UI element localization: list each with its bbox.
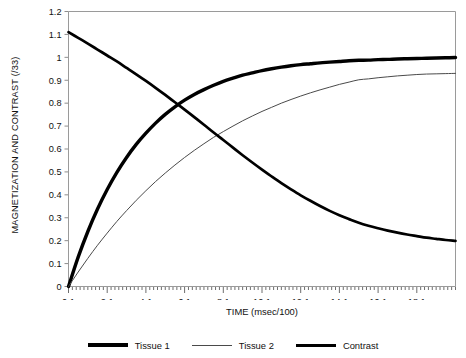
legend-label: Contrast xyxy=(343,340,378,351)
legend-line-swatch-icon xyxy=(88,343,128,347)
x-axis-tick-group: 0.12.14.16.18.110.112.114.116.118.1 xyxy=(62,287,455,301)
legend-item-tissue-2[interactable]: Tissue 2 xyxy=(192,340,274,351)
x-tick-label: 14.1 xyxy=(330,297,348,301)
y-tick-label: 1 xyxy=(56,53,61,63)
series-line-tissue-1 xyxy=(69,58,456,287)
series-line-tissue-2 xyxy=(69,73,456,286)
legend-item-contrast[interactable]: Contrast xyxy=(296,340,378,351)
y-tick-label: 0.3 xyxy=(49,213,62,223)
x-tick-label: 12.1 xyxy=(292,297,310,301)
legend-item-tissue-1[interactable]: Tissue 1 xyxy=(88,340,170,351)
x-tick-label: 6.1 xyxy=(178,297,191,301)
x-axis-title: TIME (msec/100) xyxy=(68,306,456,317)
series-line-contrast xyxy=(69,32,456,241)
plot-frame xyxy=(69,12,456,287)
x-tick-label: 8.1 xyxy=(217,297,230,301)
y-axis-tick-group: 00.10.20.30.40.50.60.70.80.911.11.2 xyxy=(49,7,69,292)
chart-container: MAGNETIZATION AND CONTRAST (/33) 00.10.2… xyxy=(0,0,466,358)
plot-svg: 00.10.20.30.40.50.60.70.80.911.11.2 0.12… xyxy=(0,0,466,300)
y-tick-label: 0.4 xyxy=(49,190,62,200)
chart-legend: Tissue 1Tissue 2Contrast xyxy=(0,334,466,356)
x-tick-label: 10.1 xyxy=(253,297,271,301)
x-tick-label: 0.1 xyxy=(62,297,75,301)
series-group xyxy=(69,32,456,286)
y-tick-label: 0.5 xyxy=(49,167,62,177)
y-tick-label: 1.2 xyxy=(49,7,62,17)
x-tick-label: 16.1 xyxy=(369,297,387,301)
y-tick-label: 1.1 xyxy=(49,30,62,40)
legend-label: Tissue 1 xyxy=(135,340,170,351)
y-tick-label: 0.1 xyxy=(49,259,62,269)
x-tick-label: 4.1 xyxy=(140,297,153,301)
y-tick-label: 0.7 xyxy=(49,121,62,131)
y-tick-label: 0.8 xyxy=(49,98,62,108)
y-tick-label: 0.6 xyxy=(49,144,62,154)
y-tick-label: 0.2 xyxy=(49,236,62,246)
y-tick-label: 0 xyxy=(56,282,61,292)
x-tick-label: 2.1 xyxy=(101,297,114,301)
legend-label: Tissue 2 xyxy=(239,340,274,351)
x-tick-label: 18.1 xyxy=(408,297,426,301)
legend-line-swatch-icon xyxy=(296,344,336,347)
y-tick-label: 0.9 xyxy=(49,76,62,86)
legend-line-swatch-icon xyxy=(192,345,232,346)
